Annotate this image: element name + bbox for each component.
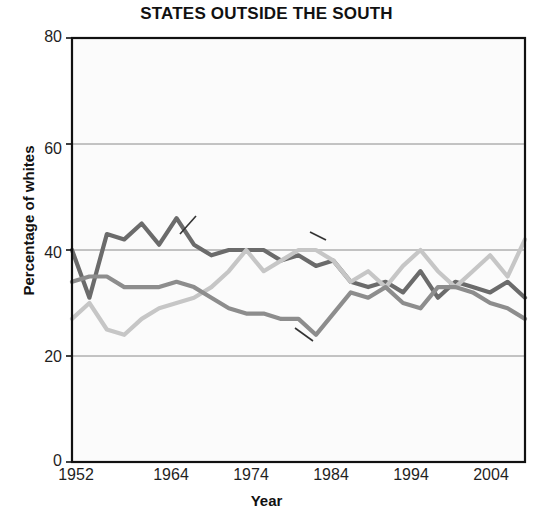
plot-canvas	[0, 0, 533, 518]
chart-figure: STATES OUTSIDE THE SOUTH Percentage of w…	[0, 0, 533, 518]
